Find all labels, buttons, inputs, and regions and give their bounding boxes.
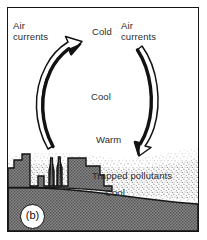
curved-up-arrow-icon [36, 37, 82, 150]
label-air-currents-right-line1: Air [121, 21, 156, 32]
figure-scene: Air currents Air currents Cold Cool Warm… [8, 8, 198, 231]
curved-down-arrow-icon [135, 46, 158, 156]
panel-label-b: (b) [20, 204, 45, 229]
label-air-currents-right: Air currents [121, 21, 156, 42]
label-air-currents-left-line2: currents [13, 32, 48, 43]
label-warm: Warm [96, 135, 121, 146]
label-trapped-pollutants: Trapped pollutants [92, 171, 172, 182]
label-air-currents-left: Air currents [13, 21, 48, 42]
label-air-currents-left-line1: Air [13, 21, 48, 32]
label-cool-lower: Cool [105, 188, 125, 199]
label-cold: Cold [92, 27, 112, 38]
label-cool-middle: Cool [91, 92, 111, 103]
figure-border: Air currents Air currents Cold Cool Warm… [7, 7, 199, 232]
inversion-figure: Air currents Air currents Cold Cool Warm… [0, 0, 207, 240]
label-air-currents-right-line2: currents [121, 32, 156, 43]
